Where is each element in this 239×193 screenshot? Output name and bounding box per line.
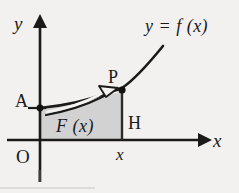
curve-equation-label: y = f (x) [145,17,208,35]
point-h-label: H [128,114,141,132]
scan-artifact [38,170,41,182]
y-axis-label: y [14,14,22,33]
point-p-dot [118,86,125,93]
x-axis-arrowhead [198,133,212,147]
point-p-label: P [108,68,118,86]
x-axis-label: x [213,131,221,150]
y-axis-arrowhead [33,14,47,28]
origin-label: O [16,147,30,166]
area-function-label: F (x) [56,117,94,135]
math-figure: y x O A P H x F (x) y = f (x) [0,0,239,193]
x-value-tick-label: x [116,146,124,163]
point-a-label: A [15,92,28,110]
point-a-dot [37,105,44,112]
scan-artifact-edge [0,187,95,189]
